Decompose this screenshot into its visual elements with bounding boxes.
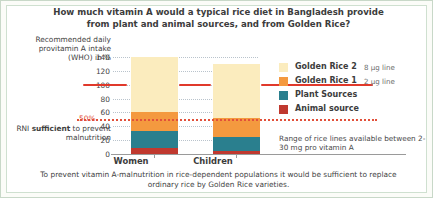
bar-segment-gr1[interactable] — [131, 112, 178, 131]
legend-swatch — [279, 63, 288, 72]
hundred-percent-reference-line — [179, 84, 211, 87]
legend-swatch — [279, 91, 288, 100]
bar-segment-gr2[interactable] — [131, 57, 178, 112]
x-axis-label-children: Children — [173, 156, 253, 166]
bar-women[interactable] — [131, 57, 178, 154]
legend-sublabel: 8 µg line — [364, 63, 395, 72]
legend-swatch — [279, 77, 288, 86]
y-axis-tick-label: 20 — [101, 136, 110, 145]
hundred-percent-reference-line — [83, 84, 127, 87]
legend-sublabel: 2 µg line — [364, 77, 395, 86]
y-axis-tick-label: 140 — [96, 53, 110, 62]
bar-segment-gr2[interactable] — [213, 64, 260, 118]
bar-segment-plant[interactable] — [213, 137, 260, 151]
bar-segment-plant[interactable] — [131, 131, 178, 148]
y-axis-tick-label: 40 — [101, 122, 110, 131]
fifty-percent-reference-line — [77, 119, 377, 121]
y-axis-tick-label: 60 — [101, 108, 110, 117]
y-axis-tick-label: 120 — [96, 66, 110, 75]
rni-prefix: RNI — [16, 124, 31, 133]
x-axis-line — [111, 154, 406, 155]
bar-children[interactable] — [213, 57, 260, 154]
legend-item[interactable]: Golden Rice 28 µg line — [279, 61, 429, 74]
legend-label: Golden Rice 1 — [295, 76, 357, 85]
legend-label: Animal source — [295, 104, 359, 113]
legend-note: Range of rice lines available between 2-… — [279, 134, 429, 153]
legend-label: Plant Sources — [295, 90, 357, 99]
y-axis-tick-label: 80 — [101, 94, 110, 103]
legend-swatch — [279, 105, 288, 114]
legend-item[interactable]: Plant Sources — [279, 89, 429, 102]
chart-title: How much vitamin A would a typical rice … — [41, 7, 396, 30]
chart-figure: How much vitamin A would a typical rice … — [0, 0, 433, 198]
x-axis-label-women: Women — [91, 156, 171, 166]
plot-area: 020406080100120140WomenChildren — [113, 57, 258, 154]
rni-bold: sufficient — [32, 124, 71, 133]
rni-annotation: RNI sufficient to prevent malnutrition — [15, 124, 111, 143]
figure-caption: To prevent vitamin A-malnutrition in ric… — [31, 170, 406, 189]
legend-label: Golden Rice 2 — [295, 62, 357, 71]
legend: Golden Rice 28 µg lineGolden Rice 12 µg … — [279, 61, 429, 117]
x-axis-tick — [154, 154, 155, 158]
x-axis-tick — [236, 154, 237, 158]
legend-item[interactable]: Golden Rice 12 µg line — [279, 75, 429, 88]
legend-item[interactable]: Animal source — [279, 103, 429, 116]
